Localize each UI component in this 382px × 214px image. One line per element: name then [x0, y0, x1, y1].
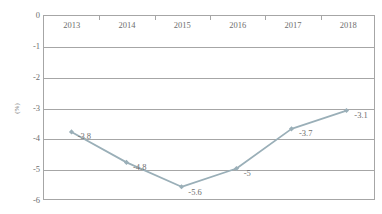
data-point-label: -3.1	[354, 110, 367, 119]
data-point-label: -5	[244, 169, 251, 178]
y-axis-tick-label: -1	[18, 42, 40, 51]
y-axis-tick-labels: 0-1-2-3-4-5-6	[0, 0, 40, 214]
y-axis-tick-label: -5	[18, 165, 40, 174]
plot-area: 201320142015201620172018 -3.8-4.8-5.6-5-…	[43, 15, 375, 200]
line-chart: (%) 0-1-2-3-4-5-6 2013201420152016201720…	[0, 0, 382, 214]
y-axis-tick-label: -2	[18, 72, 40, 81]
y-axis-tick-label: 0	[18, 11, 40, 20]
y-axis-tick-label: -6	[18, 196, 40, 205]
data-point-label: -3.7	[299, 129, 312, 138]
data-point-label: -5.6	[188, 187, 201, 196]
data-point-label: -3.8	[78, 132, 91, 141]
data-point-label: -4.8	[133, 163, 146, 172]
y-axis-tick-label: -4	[18, 134, 40, 143]
data-point-marker	[179, 184, 184, 189]
series-line	[72, 111, 347, 187]
data-point-marker	[344, 108, 349, 113]
y-axis-tick-label: -3	[18, 103, 40, 112]
data-series	[44, 16, 374, 199]
